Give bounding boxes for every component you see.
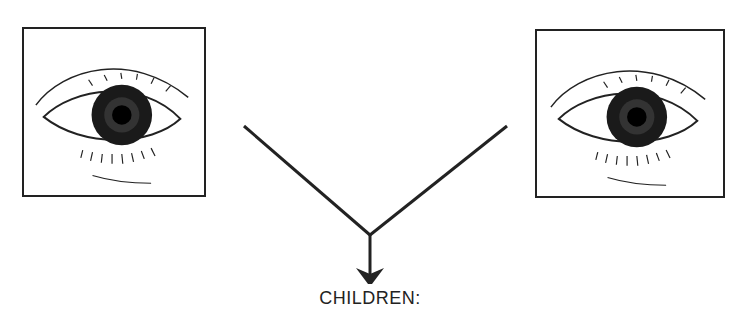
children-label: CHILDREN: [300,288,440,309]
eye-icon [24,29,204,195]
connector-left-line [244,126,370,235]
connector-right-line [370,126,507,235]
eye-icon [537,31,723,196]
right-eye-panel [535,29,725,198]
left-eye-panel [22,27,206,197]
